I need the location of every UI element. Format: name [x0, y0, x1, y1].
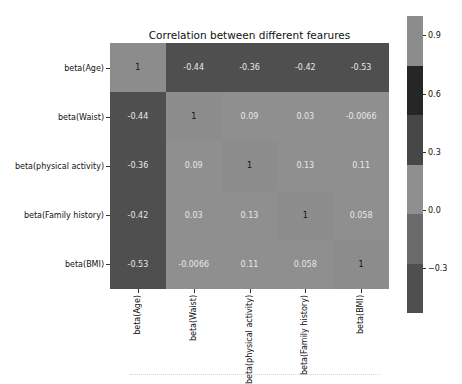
heatmap-cell: 1 [166, 92, 222, 141]
heatmap-cell: -0.44 [166, 43, 222, 92]
x-tick-label: beta(Waist) [189, 295, 198, 341]
colorbar-tick-label: 0.3 [428, 147, 441, 156]
x-tick [361, 289, 362, 293]
colorbar-band [407, 16, 423, 66]
colorbar-tick-label: 0.6 [428, 89, 441, 98]
heatmap-cell: 0.03 [277, 92, 333, 141]
y-tick [106, 117, 110, 118]
y-tick [106, 166, 110, 167]
colorbar-band [407, 264, 423, 314]
x-tick [250, 289, 251, 293]
x-tick [194, 289, 195, 293]
heatmap-cell: -0.53 [110, 240, 166, 289]
heatmap-cell: 1 [110, 43, 166, 92]
heatmap-cell: 0.11 [222, 240, 278, 289]
heatmap-cell: 0.13 [222, 191, 278, 240]
heatmap-cell: 1 [222, 141, 278, 190]
colorbar-band [407, 66, 423, 116]
colorbar-band [407, 115, 423, 165]
heatmap-cell: -0.36 [110, 141, 166, 190]
heatmap-cell: -0.44 [110, 92, 166, 141]
heatmap-cell: 0.09 [166, 141, 222, 190]
cropped-caption [130, 374, 380, 378]
y-tick [106, 68, 110, 69]
heatmap-cell: 1 [277, 191, 333, 240]
heatmap-cell: -0.53 [333, 43, 389, 92]
heatmap-cell: 0.09 [222, 92, 278, 141]
heatmap-grid: 1-0.44-0.36-0.42-0.53-0.4410.090.03-0.00… [110, 43, 389, 289]
heatmap-cell: 0.058 [277, 240, 333, 289]
heatmap-cell: 1 [333, 240, 389, 289]
x-tick-label: beta(physical activity) [245, 295, 254, 384]
x-tick-label: beta(Family history) [300, 295, 309, 375]
x-tick [305, 289, 306, 293]
heatmap-cell: -0.42 [277, 43, 333, 92]
colorbar-tick-label: 0.0 [428, 206, 441, 215]
chart-title: Correlation between different fearures [110, 29, 389, 41]
colorbar-tick-label: 0.9 [428, 31, 441, 40]
colorbar-tick-label: −0.3 [428, 264, 447, 273]
colorbar-tick [423, 152, 426, 153]
heatmap-cell: -0.42 [110, 191, 166, 240]
colorbar [407, 16, 423, 313]
heatmap-cell: -0.36 [222, 43, 278, 92]
y-tick-label: beta(Family history) [24, 211, 104, 220]
y-tick-label: beta(physical activity) [15, 162, 104, 171]
heatmap-cell: 0.03 [166, 191, 222, 240]
heatmap-cell: -0.0066 [333, 92, 389, 141]
y-tick [106, 264, 110, 265]
colorbar-band [407, 165, 423, 215]
x-tick [138, 289, 139, 293]
colorbar-band [407, 214, 423, 264]
y-tick-label: beta(Age) [64, 63, 104, 72]
colorbar-tick [423, 94, 426, 95]
y-tick [106, 215, 110, 216]
x-tick-label: beta(BMI) [356, 295, 365, 334]
heatmap-cell: -0.0066 [166, 240, 222, 289]
heatmap-cell: 0.11 [333, 141, 389, 190]
heatmap-cell: 0.13 [277, 141, 333, 190]
heatmap-cell: 0.058 [333, 191, 389, 240]
y-tick-label: beta(Waist) [58, 112, 104, 121]
y-tick-label: beta(BMI) [65, 260, 104, 269]
colorbar-tick [423, 268, 426, 269]
colorbar-tick [423, 35, 426, 36]
x-tick-label: beta(Age) [133, 295, 142, 335]
colorbar-tick [423, 210, 426, 211]
